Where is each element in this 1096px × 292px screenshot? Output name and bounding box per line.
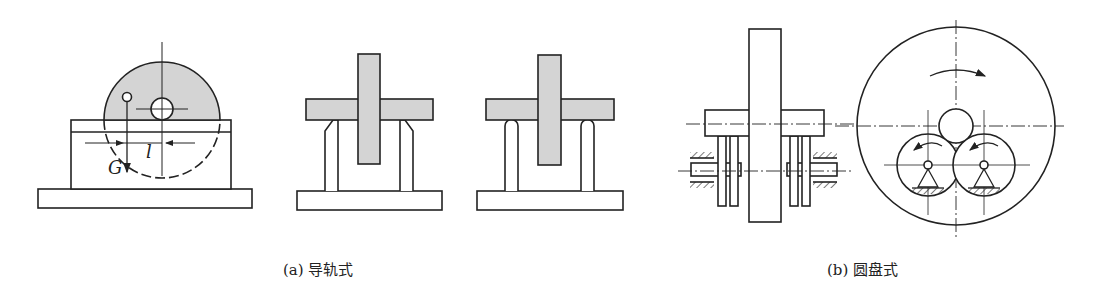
left-rail bbox=[505, 120, 518, 191]
panel-a1-rotor-on-rail bbox=[38, 42, 252, 208]
rotor-disc bbox=[538, 55, 561, 165]
panel-a3-rounded-rails bbox=[477, 55, 623, 210]
shaft bbox=[939, 109, 973, 143]
label-offset-l: l bbox=[146, 141, 152, 162]
panel-b2-roller-front-view bbox=[835, 20, 1064, 240]
right-rail bbox=[400, 120, 413, 191]
base-plate bbox=[297, 191, 442, 210]
caption-b: (b) 圆盘式 bbox=[827, 258, 898, 279]
caption-a: (a) 导轨式 bbox=[283, 258, 353, 279]
panel-a2-knife-edge-rails bbox=[297, 54, 442, 210]
weight-point bbox=[123, 93, 132, 102]
rotor-disc bbox=[358, 54, 380, 164]
panel-b1-roller-side-view bbox=[678, 29, 860, 222]
balancing-diagram: G l bbox=[0, 0, 1096, 292]
label-weight-g: G bbox=[108, 157, 122, 178]
base-plate bbox=[38, 189, 252, 208]
right-rail bbox=[581, 120, 594, 191]
base-plate bbox=[477, 191, 623, 210]
left-rail bbox=[325, 120, 338, 191]
rotor-disc bbox=[749, 29, 781, 222]
